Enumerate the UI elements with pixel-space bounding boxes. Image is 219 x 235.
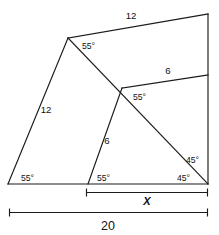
top-length-label: 12 xyxy=(126,10,137,21)
left-side-line xyxy=(8,38,68,184)
angle-left-base-label: 55° xyxy=(21,173,34,183)
upper-short-length-label: 6 xyxy=(165,65,170,76)
geometry-diagram: 12 12 6 6 55° 55° 55° 55° 45° 45° X 20 xyxy=(0,0,219,235)
angle-bottom-mid-label: 55° xyxy=(97,173,110,183)
top-edge-line xyxy=(68,14,208,38)
left-length-label: 12 xyxy=(41,104,52,115)
angle-bottom-right-upper-label: 45° xyxy=(186,155,199,165)
inner-length-label: 6 xyxy=(104,135,109,146)
geometry-canvas: 12 12 6 6 55° 55° 55° 55° 45° 45° X 20 xyxy=(0,0,219,235)
angle-bottom-right-lower-label: 45° xyxy=(177,173,190,183)
angle-apex-label: 55° xyxy=(82,41,95,51)
x-dimension-label: X xyxy=(142,195,151,207)
angle-mid-label: 55° xyxy=(133,92,146,102)
x-dimension-group: X xyxy=(86,189,208,208)
upper-short-edge-line xyxy=(122,75,208,88)
total-dimension-group: 20 xyxy=(9,209,208,234)
total-dimension-label: 20 xyxy=(101,219,115,233)
